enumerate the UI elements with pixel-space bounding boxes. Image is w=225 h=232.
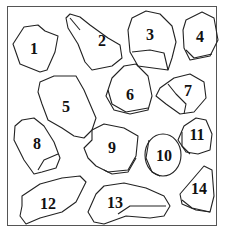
shape-10: 10 (145, 134, 181, 176)
shape-7: 7 (156, 74, 206, 114)
shape-8: 8 (14, 118, 60, 174)
shape-label-14: 14 (191, 180, 207, 197)
shape-12: 12 (20, 176, 86, 224)
shape-label-12: 12 (40, 195, 56, 212)
shape-label-3: 3 (146, 26, 154, 43)
shape-label-1: 1 (30, 40, 38, 57)
shape-label-13: 13 (107, 194, 123, 211)
shape-label-5: 5 (62, 98, 70, 115)
shape-label-9: 9 (108, 139, 116, 156)
shapes-diagram: 1 2 3 4 5 6 7 8 9 (0, 0, 225, 232)
shape-label-2: 2 (98, 32, 106, 49)
shape-label-7: 7 (184, 82, 192, 99)
shape-label-4: 4 (196, 28, 204, 45)
shape-label-11: 11 (189, 126, 204, 143)
shape-11: 11 (178, 118, 212, 154)
shape-2: 2 (66, 14, 122, 70)
shape-label-10: 10 (156, 147, 172, 164)
shape-3: 3 (128, 11, 176, 70)
shape-9: 9 (84, 124, 138, 174)
shape-5: 5 (38, 76, 96, 138)
shape-14: 14 (180, 166, 214, 212)
shape-label-8: 8 (33, 135, 41, 152)
shape-6: 6 (106, 64, 152, 114)
shape-13: 13 (88, 183, 170, 224)
shape-4: 4 (183, 12, 218, 60)
shape-label-6: 6 (126, 86, 134, 103)
shape-1: 1 (13, 25, 58, 72)
